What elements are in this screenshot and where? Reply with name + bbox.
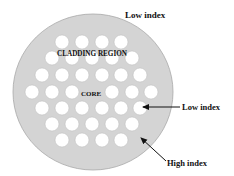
pcf-diagram: Low index CLADDING REGION CORE Low index… xyxy=(0,0,234,176)
air-hole xyxy=(85,117,99,131)
air-hole xyxy=(114,133,128,147)
air-hole xyxy=(55,133,69,147)
air-hole xyxy=(55,68,69,82)
air-hole xyxy=(95,35,109,49)
air-hole xyxy=(35,101,49,115)
air-hole xyxy=(95,68,109,82)
air-hole xyxy=(25,85,39,99)
air-hole xyxy=(45,117,59,131)
air-hole xyxy=(125,85,139,99)
top-low-index-label: Low index xyxy=(125,10,166,20)
air-hole xyxy=(114,68,128,82)
air-hole xyxy=(55,101,69,115)
high-index-label: High index xyxy=(167,158,208,168)
air-hole xyxy=(144,85,158,99)
air-hole xyxy=(114,35,128,49)
air-hole xyxy=(75,68,89,82)
air-hole xyxy=(75,101,89,115)
air-hole xyxy=(105,85,119,99)
air-hole xyxy=(55,35,69,49)
air-hole xyxy=(65,117,79,131)
air-hole xyxy=(75,35,89,49)
air-hole xyxy=(125,51,139,65)
air-hole xyxy=(133,101,147,115)
air-hole xyxy=(45,85,59,99)
air-hole xyxy=(114,101,128,115)
air-hole xyxy=(133,68,147,82)
air-hole xyxy=(105,117,119,131)
cladding-region-label: CLADDING REGION xyxy=(57,50,128,58)
air-hole xyxy=(125,117,139,131)
air-hole xyxy=(65,85,79,99)
right-low-index-label: Low index xyxy=(182,102,221,112)
air-hole xyxy=(75,133,89,147)
core-label: CORE xyxy=(81,90,102,98)
air-hole xyxy=(95,133,109,147)
air-hole xyxy=(35,68,49,82)
air-hole xyxy=(95,101,109,115)
